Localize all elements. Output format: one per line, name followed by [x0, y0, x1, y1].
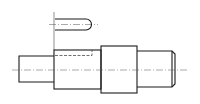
shaft-drawing [0, 0, 200, 104]
keyway-detail [49, 12, 98, 50]
shaft [12, 46, 188, 93]
left-shaft-segment [19, 56, 54, 82]
collar [101, 46, 137, 93]
hidden-keyway-line [55, 50, 92, 56]
right-shaft-segment [137, 51, 175, 87]
